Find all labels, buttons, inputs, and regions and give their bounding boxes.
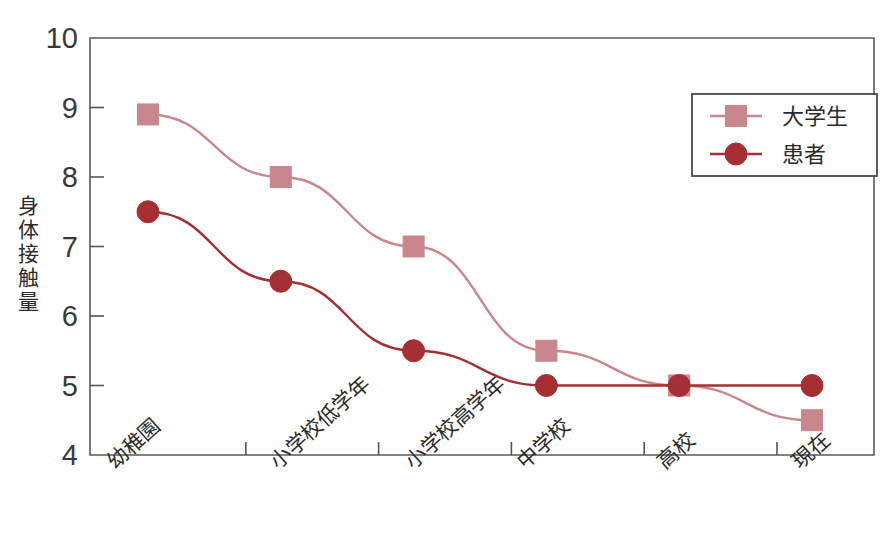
data-point-marker — [535, 375, 557, 397]
y-tick-label-7: 7 — [62, 231, 78, 263]
data-point-marker — [536, 340, 557, 361]
y-tick-label-4: 4 — [62, 439, 78, 471]
chart-legend: 大学生患者 — [692, 94, 877, 176]
data-point-marker — [668, 375, 690, 397]
legend-label-0: 大学生 — [782, 104, 848, 129]
y-axis-title-char: 触 — [18, 266, 39, 290]
data-point-marker — [403, 340, 425, 362]
y-tick-label-10: 10 — [46, 22, 78, 54]
legend-circle-marker — [725, 143, 747, 165]
y-axis-title-char: 接 — [18, 242, 39, 266]
data-point-marker — [801, 375, 823, 397]
data-point-marker — [270, 167, 291, 188]
y-axis-title-char: 体 — [18, 218, 39, 242]
y-axis-title: 身体接触量 — [18, 194, 39, 314]
legend-square-marker — [726, 106, 747, 127]
legend-label-1: 患者 — [782, 142, 826, 167]
line-chart: 45678910 幼稚園小学校低学年小学校高学年中学校高校現在 身体接触量 大学… — [0, 0, 896, 557]
data-point-marker — [137, 201, 159, 223]
data-point-marker — [403, 236, 424, 257]
y-axis-title-char: 身 — [18, 194, 39, 218]
data-point-marker — [270, 270, 292, 292]
data-point-marker — [802, 410, 823, 431]
chart-background — [0, 0, 896, 557]
y-tick-label-6: 6 — [62, 300, 78, 332]
y-axis-title-char: 量 — [18, 290, 39, 314]
chart-container: 45678910 幼稚園小学校低学年小学校高学年中学校高校現在 身体接触量 大学… — [0, 0, 896, 557]
y-tick-label-8: 8 — [62, 161, 78, 193]
data-point-marker — [138, 104, 159, 125]
y-tick-label-5: 5 — [62, 370, 78, 402]
y-tick-label-9: 9 — [62, 92, 78, 124]
